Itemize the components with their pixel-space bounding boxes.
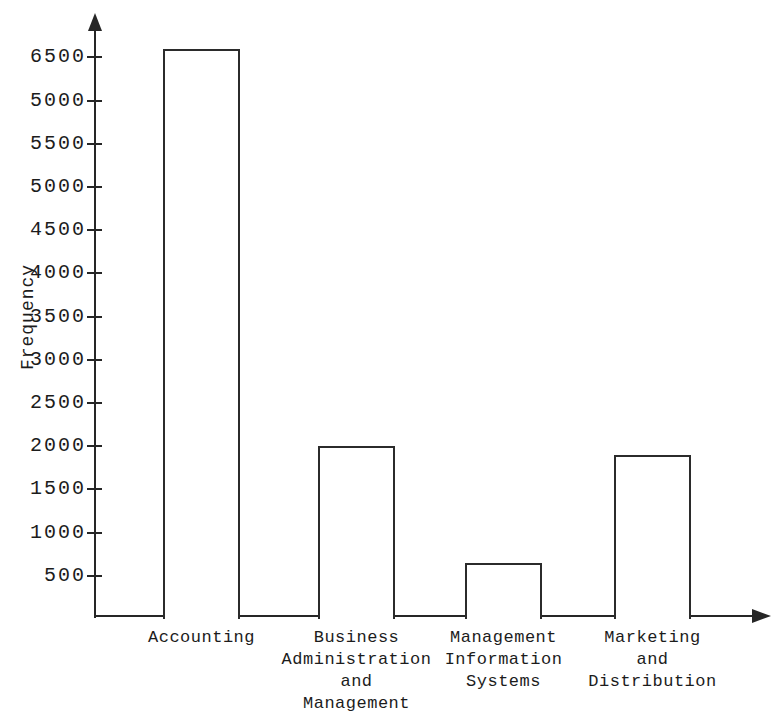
y-tick-mark — [87, 532, 102, 534]
y-tick-mark — [87, 100, 102, 102]
y-tick-mark — [87, 143, 102, 145]
bar-accounting — [163, 49, 240, 619]
y-tick-label: 6500 — [6, 44, 86, 70]
y-tick-label: 4500 — [6, 217, 86, 243]
y-tick-label: 3000 — [6, 347, 86, 373]
y-tick-mark — [87, 229, 102, 231]
bar-marketing-and-distribution — [614, 455, 691, 619]
y-tick-label: 1500 — [6, 476, 86, 502]
y-tick-mark — [87, 316, 102, 318]
x-category-label: MarketingandDistribution — [543, 627, 763, 693]
x-category-label-line: and — [543, 649, 763, 671]
y-tick-mark — [87, 56, 102, 58]
bar-business-administration-and-management — [318, 446, 395, 619]
y-tick-label: 5500 — [6, 131, 86, 157]
y-tick-label: 2500 — [6, 390, 86, 416]
y-tick-mark — [87, 402, 102, 404]
y-tick-mark — [87, 359, 102, 361]
y-axis-arrow-icon — [88, 13, 102, 31]
y-tick-label: 5000 — [6, 88, 86, 114]
x-axis-arrow-icon — [752, 609, 771, 623]
y-axis-line — [94, 26, 96, 618]
y-tick-label: 3500 — [6, 304, 86, 330]
y-tick-mark — [87, 575, 102, 577]
y-tick-mark — [87, 272, 102, 274]
y-tick-label: 1000 — [6, 520, 86, 546]
y-tick-mark — [87, 186, 102, 188]
y-tick-label: 4000 — [6, 260, 86, 286]
y-tick-mark — [87, 488, 102, 490]
x-category-label-line: Marketing — [543, 627, 763, 649]
y-tick-label: 5000 — [6, 174, 86, 200]
bar-management-information-systems — [465, 563, 542, 619]
y-tick-label: 500 — [6, 563, 86, 589]
y-tick-label: 2000 — [6, 433, 86, 459]
x-category-label-line: Management — [247, 693, 467, 715]
x-category-label-line: Distribution — [543, 671, 763, 693]
bar-chart: Frequency 500100015002000250030003500400… — [0, 0, 783, 727]
y-tick-mark — [87, 445, 102, 447]
